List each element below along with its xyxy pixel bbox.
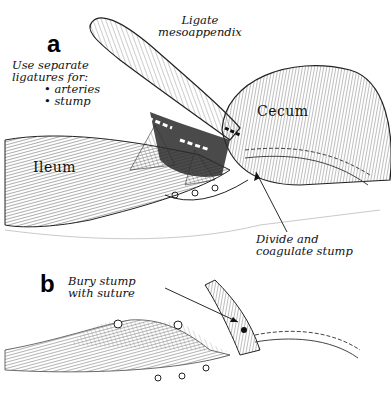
cecum-b-shape bbox=[205, 280, 260, 355]
label-divide-line2: coagulate stump bbox=[256, 245, 353, 257]
label-bury-stump: Bury stump with suture bbox=[68, 275, 136, 299]
label-ileum: Ileum bbox=[33, 160, 76, 175]
label-ligate-line2: mesoappendix bbox=[158, 26, 242, 38]
panel-a-drawing bbox=[5, 18, 391, 239]
panel-letter-a: a bbox=[47, 30, 60, 58]
label-divide-coagulate: Divide and coagulate stump bbox=[256, 233, 353, 257]
label-cecum: Cecum bbox=[257, 104, 309, 119]
label-ligate-mesoappendix: Ligate mesoappendix bbox=[158, 14, 242, 38]
bullet-stump: stump bbox=[44, 95, 100, 107]
label-use-separate-ligatures: Use separate ligatures for: arteries stu… bbox=[12, 59, 100, 107]
cecum-shape bbox=[222, 66, 391, 185]
panel-letter-b: b bbox=[40, 270, 55, 298]
label-bury-line2: with suture bbox=[68, 287, 136, 299]
panel-b-drawing bbox=[5, 280, 360, 381]
ligature-bullet-list: arteries stump bbox=[44, 83, 100, 107]
